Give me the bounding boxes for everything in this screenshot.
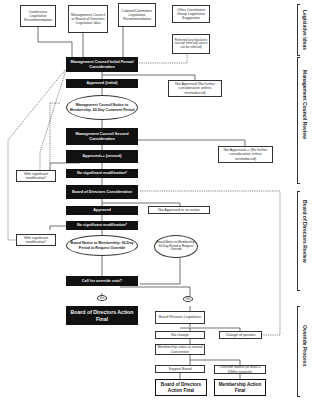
bracket-legislative-ideas bbox=[297, 4, 300, 56]
yes-left-oval: Yes bbox=[97, 295, 107, 301]
source-other: Other Constituent Group Legislative Sugg… bbox=[172, 5, 210, 23]
call-override-vote-label: Call for override vote? bbox=[82, 279, 122, 284]
board-reviews-legislation: Board Reviews Legislation bbox=[155, 311, 205, 324]
board-not-approved: Not Approved or no action bbox=[148, 206, 210, 214]
board-consideration-label: Board of Directors Consideration bbox=[72, 190, 132, 195]
mgmt-no-modification: No significant modification* bbox=[66, 169, 138, 178]
mgmt-with-modification-label: With significant modification* bbox=[18, 172, 54, 181]
change-of-position: Change of position bbox=[219, 331, 262, 339]
board-no-modification: No significant modification* bbox=[66, 221, 138, 230]
mgmt-initial-consideration: Management Council Initial Formal Consid… bbox=[66, 57, 138, 72]
no-change: No change bbox=[155, 331, 205, 339]
board-approved-label: Approved bbox=[93, 208, 111, 213]
support-board: Support Board bbox=[155, 365, 205, 373]
side-label-override-process: Override Process bbox=[302, 325, 308, 366]
mgmt-no-modification-label: No significant modification* bbox=[77, 171, 127, 176]
mgmt-initial-consideration-label: Management Council Initial Formal Consid… bbox=[67, 60, 137, 69]
bracket-board-review bbox=[297, 191, 300, 291]
board-with-modification: With significant modification* bbox=[16, 234, 56, 246]
mgmt-not-approved-second: Not Approved++ (No further consideration… bbox=[218, 146, 273, 163]
mgmt-notice-oval: Management Council Notice to Membership,… bbox=[66, 95, 138, 120]
membership-votes-label: Membership votes at annual Convention bbox=[157, 345, 203, 354]
side-label-legislative-ideas: Legislative Ideas bbox=[302, 10, 308, 50]
board-consideration: Board of Directors Consideration bbox=[66, 185, 138, 199]
source-referred-label: Referred (any legislative concept from a… bbox=[174, 39, 208, 50]
board-notice-left-oval: Board Notice to Membership: 60-Day Perio… bbox=[66, 235, 138, 256]
board-action-final-top-label: Board of Directors Action Final bbox=[67, 309, 137, 321]
board-action-final-bottom: Board of Directors Action Final bbox=[155, 379, 207, 396]
yes-left-label: Yes bbox=[100, 296, 105, 300]
source-mgmt-board: Management Council or Board of Directors… bbox=[68, 5, 108, 33]
bracket-mgmt-council-review bbox=[297, 57, 300, 184]
change-of-position-label: Change of position bbox=[226, 333, 256, 337]
board-reviews-legislation-label: Board Reviews Legislation bbox=[159, 315, 201, 319]
membership-votes: Membership votes at annual Convention bbox=[155, 344, 205, 355]
yes-right-label: Yes bbox=[186, 297, 191, 301]
source-other-label: Other Constituent Group Legislative Sugg… bbox=[174, 8, 208, 21]
mgmt-approved-initial-label: Approved (initial) bbox=[86, 81, 117, 86]
board-not-approved-label: Not Approved or no action bbox=[158, 208, 200, 212]
board-no-modification-label: No significant modification* bbox=[77, 223, 127, 228]
bracket-override-process bbox=[297, 306, 300, 397]
override-board-label: Override Board (at least a 5/8ths majori… bbox=[216, 365, 264, 374]
board-notice-left-label: Board Notice to Membership: 60-Day Perio… bbox=[68, 241, 136, 250]
side-label-board-review: Board of Directors Review bbox=[302, 200, 308, 263]
source-cabinet: Cabinet/Committee Legislative Recommenda… bbox=[118, 3, 156, 27]
source-conference-label: Conference Legislative Recommendation bbox=[22, 10, 54, 23]
mgmt-notice-label: Management Council Notice to Membership,… bbox=[68, 103, 136, 112]
mgmt-approved-initial: Approved (initial) bbox=[66, 79, 138, 88]
source-cabinet-label: Cabinet/Committee Legislative Recommenda… bbox=[120, 9, 154, 22]
board-approved: Approved bbox=[66, 206, 138, 215]
board-action-final-bottom-label: Board of Directors Action Final bbox=[157, 382, 205, 393]
support-board-label: Support Board bbox=[168, 367, 191, 371]
source-referred: Referred (any legislative concept from a… bbox=[172, 34, 210, 54]
mgmt-second-consideration: Management Council Second Consideration bbox=[66, 128, 138, 145]
board-notice-right-label: Board Notice to Membership: 60-Day Perio… bbox=[156, 241, 196, 252]
call-override-vote: Call for override vote? bbox=[66, 276, 138, 286]
override-board: Override Board (at least a 5/8ths majori… bbox=[214, 365, 266, 374]
mgmt-not-approved-label: Not Approved (No further consideration u… bbox=[170, 82, 220, 95]
board-notice-right-oval: Board Notice to Membership: 60-Day Perio… bbox=[154, 235, 198, 258]
mgmt-approved-second: Approved++ (second) bbox=[66, 150, 138, 163]
mgmt-approved-second-label: Approved++ (second) bbox=[82, 154, 121, 159]
source-mgmt-board-label: Management Council or Board of Directors… bbox=[70, 13, 106, 26]
membership-action-final: Membership Action Final bbox=[214, 379, 266, 396]
board-action-final-top: Board of Directors Action Final bbox=[66, 306, 138, 325]
no-change-label: No change bbox=[171, 333, 188, 337]
mgmt-not-approved: Not Approved (No further consideration u… bbox=[168, 80, 222, 97]
mgmt-with-modification: With significant modification* bbox=[16, 170, 56, 182]
membership-action-final-label: Membership Action Final bbox=[216, 382, 264, 393]
mgmt-not-approved-second-label: Not Approved++ (No further consideration… bbox=[220, 148, 271, 161]
mgmt-second-consideration-label: Management Council Second Consideration bbox=[67, 132, 137, 141]
side-label-mgmt-council-review: Management Council Review bbox=[302, 70, 308, 139]
source-conference: Conference Legislative Recommendation bbox=[20, 5, 56, 27]
yes-right-oval: Yes bbox=[183, 296, 193, 302]
board-with-modification-label: With significant modification* bbox=[18, 236, 54, 245]
